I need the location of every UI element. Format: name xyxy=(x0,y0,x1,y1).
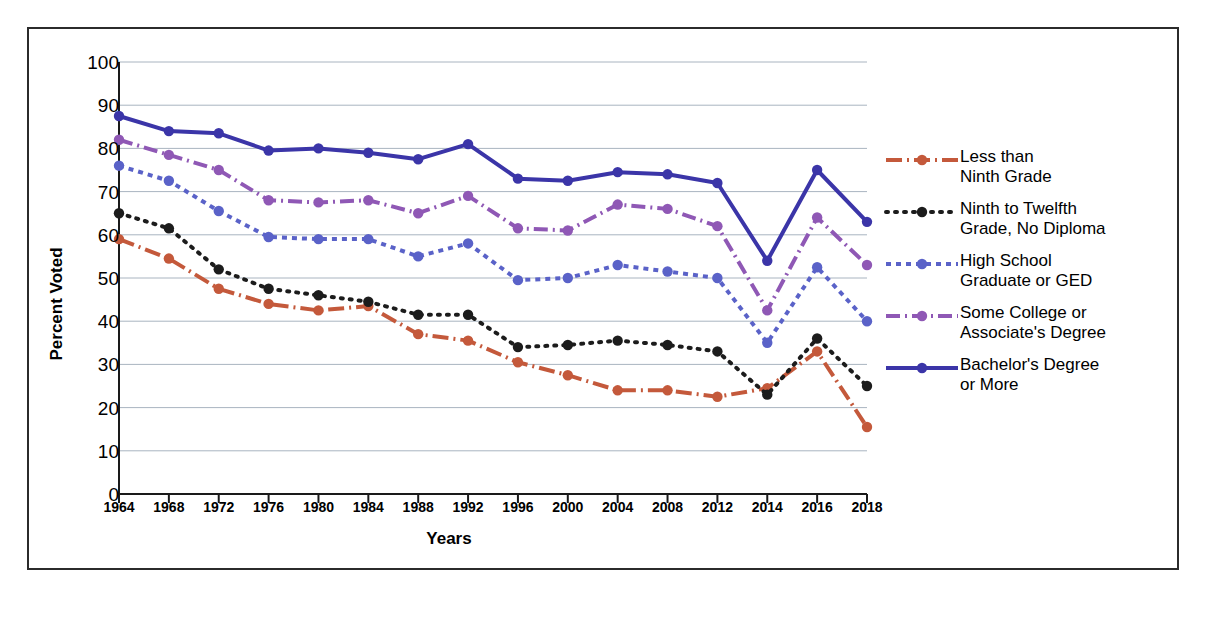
x-tick-label: 1992 xyxy=(452,499,483,515)
legend-label-line2: Grade, No Diploma xyxy=(960,219,1106,239)
legend-item[interactable]: Bachelor's Degreeor More xyxy=(884,355,1184,395)
chart-frame: Percent Voted 1009080706050403020100 196… xyxy=(27,27,1179,570)
x-tick-label: 2014 xyxy=(752,499,783,515)
legend-swatch-icon xyxy=(884,358,960,378)
legend-swatch-icon xyxy=(884,202,960,222)
legend-swatch-icon xyxy=(884,150,960,170)
legend-label-line1: Less than xyxy=(960,147,1052,167)
legend-label-line1: Ninth to Twelfth xyxy=(960,199,1106,219)
legend-item[interactable]: Less thanNinth Grade xyxy=(884,147,1184,187)
legend-label: Some College orAssociate's Degree xyxy=(960,303,1106,343)
x-tick-label: 2004 xyxy=(602,499,633,515)
legend-label: Less thanNinth Grade xyxy=(960,147,1052,187)
legend-swatch-icon xyxy=(884,254,960,274)
x-tick-label: 1988 xyxy=(403,499,434,515)
x-tick-label: 2008 xyxy=(652,499,683,515)
x-tick-label: 2000 xyxy=(552,499,583,515)
x-axis-title: Years xyxy=(29,529,869,549)
x-tick-label: 1984 xyxy=(353,499,384,515)
x-tick-label: 1964 xyxy=(103,499,134,515)
legend-label-line1: High School xyxy=(960,251,1092,271)
legend-label-line1: Bachelor's Degree xyxy=(960,355,1099,375)
legend-label: Bachelor's Degreeor More xyxy=(960,355,1099,395)
legend-label-line2: or More xyxy=(960,375,1099,395)
legend-item[interactable]: Ninth to TwelfthGrade, No Diploma xyxy=(884,199,1184,239)
legend-label: Ninth to TwelfthGrade, No Diploma xyxy=(960,199,1106,239)
legend-label-line2: Ninth Grade xyxy=(960,167,1052,187)
legend-item[interactable]: High SchoolGraduate or GED xyxy=(884,251,1184,291)
chart-legend: Less thanNinth GradeNinth to TwelfthGrad… xyxy=(884,147,1184,407)
x-tick-label: 2018 xyxy=(851,499,882,515)
x-tick-label: 2012 xyxy=(702,499,733,515)
legend-label: High SchoolGraduate or GED xyxy=(960,251,1092,291)
x-tick-label: 1972 xyxy=(203,499,234,515)
x-tick-label: 1996 xyxy=(502,499,533,515)
legend-label-line2: Graduate or GED xyxy=(960,271,1092,291)
x-tick-label: 1980 xyxy=(303,499,334,515)
x-tick-label: 1976 xyxy=(253,499,284,515)
x-tick-label: 2016 xyxy=(802,499,833,515)
x-tick-label: 1968 xyxy=(153,499,184,515)
legend-label-line2: Associate's Degree xyxy=(960,323,1106,343)
legend-label-line1: Some College or xyxy=(960,303,1106,323)
legend-swatch-icon xyxy=(884,306,960,326)
legend-item[interactable]: Some College orAssociate's Degree xyxy=(884,303,1184,343)
